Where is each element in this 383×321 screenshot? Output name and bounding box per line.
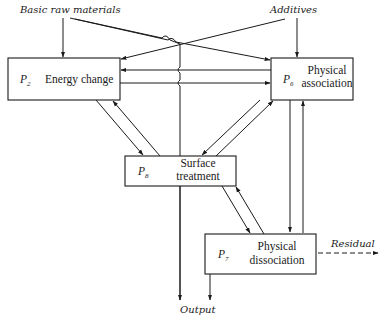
flow-association-to-surface-treatment [202, 100, 260, 155]
process-box-energy-change: P2 Energy change [8, 58, 120, 100]
flow-dissociation-to-surface-treatment [236, 187, 264, 234]
process-name-physical-dissociation-line1: Physical [258, 240, 297, 253]
output-label-output: Output [180, 304, 216, 315]
process-name-surface-treatment-line2: treatment [176, 170, 220, 182]
input-label-raw-materials: Basic raw materials [19, 4, 121, 15]
process-box-physical-dissociation: P7 Physical dissociation [205, 234, 316, 274]
process-box-surface-treatment: P8 Surface treatment [125, 156, 236, 186]
process-name-physical-association-line2: association [301, 77, 352, 89]
flow-surface-treatment-to-dissociation [222, 186, 250, 233]
flow-surface-treatment-to-association [216, 101, 273, 156]
process-name-surface-treatment-line1: Surface [180, 157, 215, 169]
flow-additives-to-energy-change [121, 19, 285, 59]
process-name-physical-dissociation-line2: dissociation [250, 254, 305, 266]
output-label-residual: Residual [330, 238, 375, 249]
process-flow-diagram: Basic raw materials Additives P2 Energy … [0, 0, 383, 321]
process-name-energy-change: Energy change [45, 73, 113, 86]
process-box-physical-association: P6 Physical association [271, 58, 353, 100]
input-label-additives: Additives [269, 4, 317, 15]
process-name-physical-association-line1: Physical [308, 64, 347, 77]
